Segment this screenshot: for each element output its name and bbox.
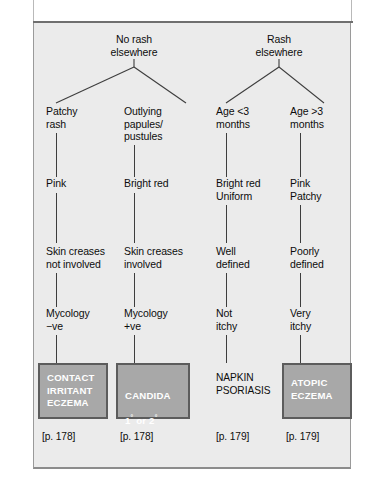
col2-line-4 bbox=[134, 335, 135, 363]
diagnosis-candida-line2: 1° or 2° bbox=[125, 415, 157, 426]
col4-step-4: Very itchy bbox=[290, 307, 370, 332]
col3-line-1 bbox=[226, 133, 227, 177]
col4-line-2 bbox=[300, 205, 301, 243]
col3-line-2 bbox=[226, 205, 227, 243]
col4-line-4 bbox=[300, 335, 301, 363]
diagnosis-candida-line1: CANDIDA bbox=[125, 390, 171, 401]
col2-line-1 bbox=[134, 145, 135, 177]
col3-step-4: Not itchy bbox=[216, 307, 296, 332]
col3-line-4 bbox=[226, 335, 227, 363]
col2-step-2: Bright red bbox=[124, 177, 204, 190]
col2-step-3: Skin creases involved bbox=[124, 245, 210, 270]
col1-step-2: Pink bbox=[46, 177, 126, 190]
col4-line-3 bbox=[300, 273, 301, 307]
col1-line-1 bbox=[56, 133, 57, 177]
page-ref-col2: [p. 178] bbox=[120, 431, 153, 443]
col1-line-2 bbox=[56, 193, 57, 243]
page-ref-col4: [p. 179] bbox=[286, 431, 319, 443]
diagnosis-box-candida: CANDIDA 1° or 2° bbox=[116, 363, 190, 419]
diagram-panel: No rash elsewhere Rash elsewhere Patchy … bbox=[33, 23, 351, 469]
col3-step-1: Age <3 months bbox=[216, 105, 296, 130]
top-right-rule bbox=[351, 0, 352, 22]
flowchart-figure: No rash elsewhere Rash elsewhere Patchy … bbox=[0, 0, 383, 490]
col4-line-1 bbox=[300, 133, 301, 177]
page-ref-col3: [p. 179] bbox=[216, 431, 249, 443]
col3-line-3 bbox=[226, 273, 227, 307]
root-node-no-rash-elsewhere: No rash elsewhere bbox=[94, 33, 174, 58]
col1-step-3: Skin creases not involved bbox=[46, 245, 132, 270]
col4-step-2: Pink Patchy bbox=[290, 177, 370, 202]
col3-step-2: Bright red Uniform bbox=[216, 177, 296, 202]
root-node-rash-elsewhere: Rash elsewhere bbox=[239, 33, 319, 58]
top-left-rule bbox=[33, 0, 34, 22]
col2-step-4: Mycology +ve bbox=[124, 307, 204, 332]
col1-line-3 bbox=[56, 273, 57, 307]
col4-step-3: Poorly defined bbox=[290, 245, 376, 270]
col4-step-1: Age >3 months bbox=[290, 105, 370, 130]
col2-step-1: Outlying papules/ pustules bbox=[124, 105, 204, 143]
page-ref-col1: [p. 178] bbox=[42, 431, 75, 443]
col2-line-2 bbox=[134, 193, 135, 243]
col2-line-3 bbox=[134, 273, 135, 307]
col1-step-1: Patchy rash bbox=[46, 105, 126, 130]
diagnosis-box-atopic-eczema: ATOPIC ECZEMA bbox=[282, 363, 352, 419]
diagnosis-box-contact-irritant-eczema: CONTACT IRRITANT ECZEMA bbox=[38, 363, 108, 419]
branch-connector-right bbox=[34, 59, 352, 105]
col1-step-4: Mycology −ve bbox=[46, 307, 126, 332]
col1-line-4 bbox=[56, 335, 57, 363]
